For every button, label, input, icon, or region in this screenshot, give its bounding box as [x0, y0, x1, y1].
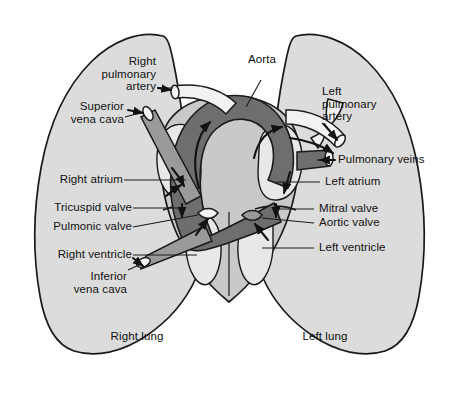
label-right-atrium: Right atrium	[24, 173, 123, 186]
label-inferior-vena-cava: Inferior vena cava	[42, 270, 127, 295]
label-mitral-valve: Mitral valve	[319, 202, 419, 215]
label-right-lung: Right lung	[96, 330, 178, 343]
label-aortic-valve: Aortic valve	[319, 216, 419, 229]
label-left-atrium: Left atrium	[325, 175, 425, 188]
label-aorta: Aorta	[236, 53, 288, 66]
label-pulmonic-valve: Pulmonic valve	[14, 220, 132, 233]
label-left-ventricle: Left ventricle	[319, 241, 423, 254]
label-tricuspid-valve: Tricuspid valve	[14, 201, 132, 214]
heart-lungs-diagram: Right pulmonary artery Superior vena cav…	[0, 0, 459, 394]
label-superior-vena-cava: Superior vena cava	[34, 100, 124, 125]
label-right-ventricle: Right ventricle	[16, 248, 132, 261]
label-right-pulmonary-artery: Right pulmonary artery	[44, 55, 156, 93]
label-pulmonary-veins: Pulmonary veins	[338, 153, 454, 166]
label-left-lung: Left lung	[288, 330, 362, 343]
label-left-pulmonary-artery: Left pulmonary artery	[322, 85, 408, 123]
